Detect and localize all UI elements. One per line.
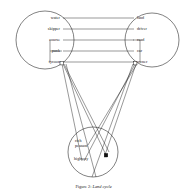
bottom-node-label-peasant: peasant [75,144,109,149]
right-node-label-road: road [137,38,183,43]
figure-caption-prefix: Figure 2: [75,184,91,189]
right-node-label-car: car [137,49,183,54]
right-node-label-driver: driver [137,27,183,32]
right-node-label-land: land [137,16,183,21]
left-node-label-punk: punk [16,49,60,54]
bottom-cluster-circle [68,127,118,177]
cluster-outlines [16,11,179,177]
figure-container: water skipper course punk tycoon land dr… [0,0,187,196]
figure-caption-title: Land cycle [92,184,111,189]
left-node-label-course: course [16,38,60,43]
right-node-label-owner: owner [137,60,183,65]
figure-caption: Figure 2: Land cycle [0,184,187,190]
horizontal-edges [63,18,134,62]
left-node-label-tycoon: tycoon [16,60,60,65]
left-anchor-marker [60,62,63,65]
left-node-label-water: water [16,16,60,21]
bottom-node-label-highway: highway [74,157,110,162]
left-node-label-skipper: skipper [16,27,60,32]
